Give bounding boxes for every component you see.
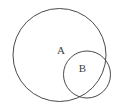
set-b-label: B (79, 62, 86, 74)
set-a-label: A (57, 44, 65, 56)
venn-diagram-canvas: A B (0, 0, 119, 110)
venn-diagram-figure: A B (0, 0, 119, 110)
